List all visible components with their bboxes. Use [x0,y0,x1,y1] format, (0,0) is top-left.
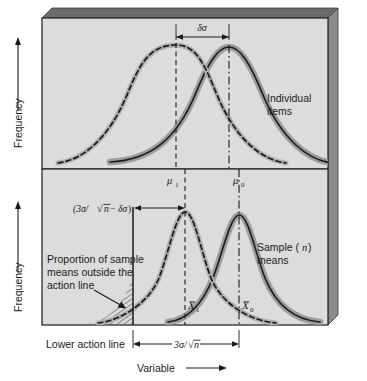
diagram-canvas: δσ Individual items μ 1 μ 0 (3σ/ √ n [0,0,367,381]
y-axis-bottom: Frequency [12,201,24,312]
lower-action-line-label: Lower action line [46,338,125,350]
svg-text:n: n [104,204,109,214]
svg-text:0: 0 [250,306,254,314]
proportion-annotation-line1: Proportion of sample [47,253,144,265]
svg-text:n: n [194,339,199,350]
svg-text:−: − [110,204,115,214]
svg-text:μ: μ [232,175,238,186]
individual-items-label-line1: Individual [267,92,311,104]
svg-text:X̅: X̅ [241,299,250,311]
x-axis-arrow [186,365,227,371]
distance-dimension-label: (3σ/ √ n − δσ ) [73,203,131,215]
svg-text:n: n [302,242,307,253]
svg-text:1: 1 [175,181,179,189]
x-axis-label: Variable [137,362,175,374]
svg-text:): ) [128,204,131,215]
individual-items-label-line2: items [267,105,292,117]
svg-text:(3σ/: (3σ/ [73,204,90,215]
svg-text:X̅: X̅ [187,299,196,311]
statistics-diagram: δσ Individual items μ 1 μ 0 (3σ/ √ n [0,0,367,381]
proportion-annotation-line2: means outside the [47,266,133,278]
sigma-dimension-label: 3σ/ √ n [173,339,201,350]
svg-text:means: means [257,254,289,266]
svg-text:Sample (: Sample ( [257,241,300,253]
proportion-annotation-line3: action line [47,279,94,291]
delta-sigma-label: δσ [197,22,208,33]
svg-text:1: 1 [196,306,200,314]
svg-text:μ: μ [166,175,172,186]
svg-text:δσ: δσ [118,204,127,214]
svg-text:): ) [308,241,312,253]
y-axis-top: Frequency [12,37,24,148]
svg-text:3σ/: 3σ/ [173,339,188,350]
svg-text:√: √ [97,203,103,214]
svg-text:0: 0 [241,181,245,189]
